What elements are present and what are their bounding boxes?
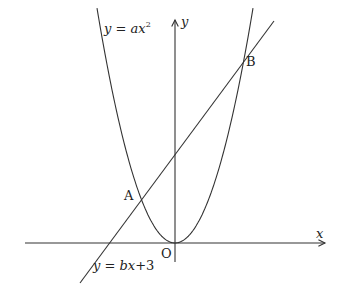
coordinate-diagram: y = ax2 y x O A B y = bx+3 — [0, 0, 345, 296]
origin-label: O — [161, 246, 172, 261]
point-a-label: A — [123, 188, 134, 203]
point-b-label: B — [246, 54, 256, 69]
y-axis-label: y — [180, 14, 189, 29]
parabola-label: y = ax2 — [103, 20, 151, 36]
line-curve — [80, 21, 274, 283]
x-axis-label: x — [316, 226, 324, 241]
line-label: y = bx+3 — [92, 258, 154, 273]
